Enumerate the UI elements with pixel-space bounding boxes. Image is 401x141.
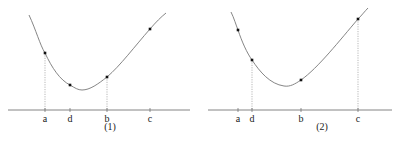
- panel-caption: (1): [104, 121, 116, 133]
- panel-2: adbc (2): [208, 8, 392, 133]
- point-label-a: a: [236, 113, 241, 124]
- point-d: [69, 84, 72, 87]
- point-b: [300, 79, 303, 82]
- point-a: [44, 52, 47, 55]
- dotted-guides: [252, 19, 358, 110]
- diagram-canvas: adbc (1) adbc (2): [0, 0, 401, 141]
- point-label-b: b: [299, 113, 304, 124]
- point-label-c: c: [356, 113, 361, 124]
- point-label-a: a: [43, 113, 48, 124]
- curve-points: [237, 18, 360, 82]
- point-c: [149, 28, 152, 31]
- point-labels: adbc: [236, 113, 361, 124]
- panel-1: adbc (1): [8, 13, 190, 133]
- panel-caption: (2): [316, 121, 328, 133]
- point-label-d: d: [68, 113, 73, 124]
- dotted-guides: [45, 53, 107, 110]
- function-curve: [231, 8, 368, 86]
- point-labels: adbc: [43, 113, 153, 124]
- point-c: [357, 18, 360, 21]
- point-label-c: c: [148, 113, 153, 124]
- point-d: [251, 59, 254, 62]
- point-label-d: d: [250, 113, 255, 124]
- function-curve: [29, 13, 166, 90]
- point-b: [106, 76, 109, 79]
- point-a: [237, 29, 240, 32]
